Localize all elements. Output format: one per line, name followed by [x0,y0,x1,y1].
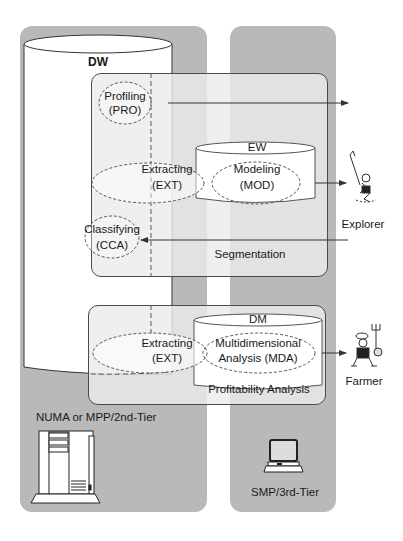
desktop-computer-icon [0,0,403,541]
